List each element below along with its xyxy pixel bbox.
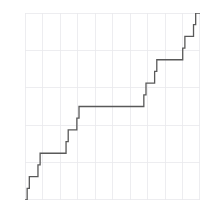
plot-area [25, 13, 200, 200]
figure-canvas [0, 0, 214, 214]
cantor-function-chart [25, 13, 200, 200]
